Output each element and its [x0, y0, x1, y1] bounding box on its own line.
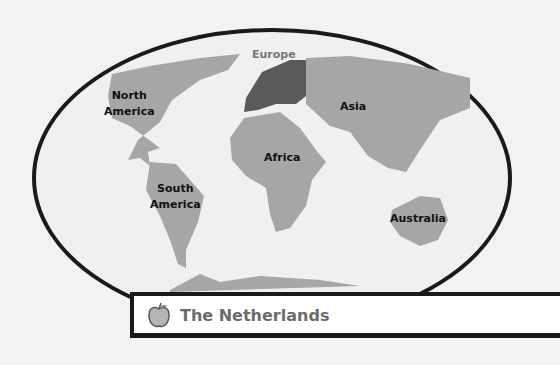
country-banner: The Netherlands: [130, 292, 560, 338]
label-line: Africa: [264, 150, 300, 166]
label-line: America: [150, 197, 201, 213]
label-south-america: South America: [150, 181, 201, 213]
label-line: America: [104, 104, 155, 120]
label-australia: Australia: [390, 211, 446, 227]
label-africa: Africa: [264, 150, 300, 166]
label-north-america: North America: [104, 88, 155, 120]
country-title: The Netherlands: [180, 306, 329, 325]
label-europe: Europe: [252, 47, 296, 63]
label-line: Europe: [252, 47, 296, 63]
label-line: Asia: [340, 99, 366, 115]
label-asia: Asia: [340, 99, 366, 115]
label-line: South: [150, 181, 201, 197]
label-line: Australia: [390, 211, 446, 227]
label-line: North: [104, 88, 155, 104]
apple-icon: [146, 302, 172, 330]
